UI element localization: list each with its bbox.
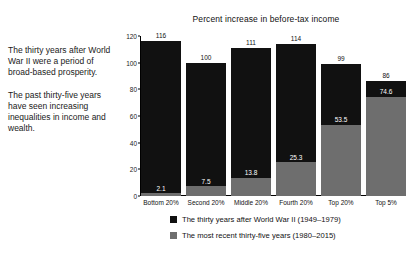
bar-value-label-recent: 25.3 bbox=[276, 154, 316, 161]
x-axis-category-label: Fourth 20% bbox=[272, 199, 320, 206]
bar-value-label-recent: 13.8 bbox=[231, 169, 271, 176]
bar-value-label-postwar: 86 bbox=[366, 72, 406, 79]
chart-title: Percent increase in before-tax income bbox=[118, 14, 414, 24]
x-axis-category-label: Second 20% bbox=[182, 199, 230, 206]
caption-paragraph-1: The thirty years after World War II were… bbox=[8, 45, 113, 79]
y-axis-tick-mark bbox=[138, 36, 140, 37]
bar-recent bbox=[366, 97, 406, 196]
bar-value-label-postwar: 100 bbox=[186, 54, 226, 61]
bar-value-label-recent: 74.6 bbox=[366, 88, 406, 95]
bar-group: 1162.1Bottom 20% bbox=[141, 36, 181, 196]
y-axis-tick-label: 100 bbox=[126, 59, 137, 66]
bar-series-container: 1162.1Bottom 20%1007.5Second 20%11113.8M… bbox=[141, 36, 406, 196]
y-axis-tick-mark bbox=[138, 62, 140, 63]
bar-value-label-postwar: 111 bbox=[231, 39, 271, 46]
legend-swatch-recent bbox=[170, 232, 177, 239]
caption-paragraph-2: The past thirty-five years have seen inc… bbox=[8, 90, 113, 135]
legend-swatch-postwar bbox=[170, 216, 177, 223]
y-axis-tick-mark bbox=[138, 116, 140, 117]
bar-group: 9953.5Top 20% bbox=[321, 36, 361, 196]
bar-recent bbox=[231, 178, 271, 196]
x-axis-category-label: Top 20% bbox=[317, 199, 365, 206]
bar-value-label-recent: 2.1 bbox=[141, 185, 181, 192]
y-axis-tick-mark bbox=[138, 89, 140, 90]
y-axis-tick-label: 40 bbox=[130, 139, 137, 146]
x-axis-category-label: Top 5% bbox=[362, 199, 410, 206]
chart-legend: The thirty years after World War II (194… bbox=[170, 215, 414, 247]
y-axis-tick-label: 60 bbox=[130, 113, 137, 120]
bar-group: 1007.5Second 20% bbox=[186, 36, 226, 196]
y-axis-tick-mark bbox=[138, 169, 140, 170]
y-axis-tick-mark bbox=[138, 196, 140, 197]
chart-page: The thirty years after World War II were… bbox=[0, 0, 420, 260]
bar-value-label-postwar: 116 bbox=[141, 32, 181, 39]
bar-recent bbox=[186, 186, 226, 196]
bar-value-label-postwar: 99 bbox=[321, 55, 361, 62]
bar-recent bbox=[141, 193, 181, 196]
legend-label-postwar: The thirty years after World War II (194… bbox=[182, 215, 341, 224]
bar-postwar bbox=[186, 63, 226, 196]
y-axis-tick-label: 120 bbox=[126, 33, 137, 40]
bar-value-label-postwar: 114 bbox=[276, 35, 316, 42]
bar-recent bbox=[321, 125, 361, 196]
plot-area: 020406080100120 1162.1Bottom 20%1007.5Se… bbox=[140, 36, 406, 196]
x-axis-category-label: Bottom 20% bbox=[137, 199, 185, 206]
y-axis-tick-label: 80 bbox=[130, 86, 137, 93]
y-axis-tick-mark bbox=[138, 142, 140, 143]
legend-item-recent: The most recent thirty-five years (1980–… bbox=[170, 231, 414, 240]
bar-postwar bbox=[141, 41, 181, 196]
bar-value-label-recent: 53.5 bbox=[321, 116, 361, 123]
bar-group: 11113.8Middle 20% bbox=[231, 36, 271, 196]
x-axis-category-label: Middle 20% bbox=[227, 199, 275, 206]
legend-item-postwar: The thirty years after World War II (194… bbox=[170, 215, 414, 224]
caption-block: The thirty years after World War II were… bbox=[8, 45, 113, 134]
y-axis-tick-label: 20 bbox=[130, 166, 137, 173]
legend-label-recent: The most recent thirty-five years (1980–… bbox=[182, 231, 336, 240]
bar-value-label-recent: 7.5 bbox=[186, 178, 226, 185]
bar-chart: Percent increase in before-tax income 02… bbox=[118, 10, 414, 255]
bar-recent bbox=[276, 162, 316, 196]
bar-group: 8674.6Top 5% bbox=[366, 36, 406, 196]
bar-group: 11425.3Fourth 20% bbox=[276, 36, 316, 196]
